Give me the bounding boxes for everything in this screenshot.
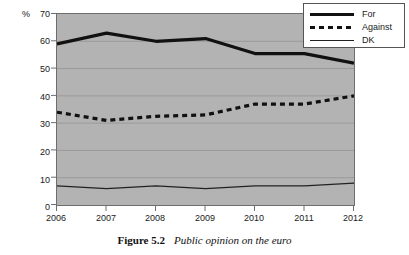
y-tick-label-70: 70 (30, 10, 50, 19)
x-tick-label-2008: 2008 (138, 214, 172, 223)
y-tick-label-30: 30 (30, 120, 50, 129)
y-tick-label-50: 50 (30, 65, 50, 74)
series-line-against (57, 96, 354, 121)
y-tick-label-40: 40 (30, 93, 50, 102)
x-tick-label-2007: 2007 (89, 214, 123, 223)
legend-swatch-dk-icon (310, 36, 354, 46)
legend-label-against: Against (362, 23, 392, 32)
y-tick-label-10: 10 (30, 176, 50, 185)
chart-legend: For Against DK (303, 3, 405, 48)
caption-figure-number: Figure 5.2 (118, 234, 165, 246)
series-line-dk (57, 183, 354, 188)
figure-container: % 70 60 50 40 30 20 10 0 (0, 0, 409, 255)
y-tick-label-60: 60 (30, 37, 50, 46)
legend-item-against: Against (304, 21, 404, 34)
legend-item-for: For (304, 8, 404, 21)
legend-swatch-against-icon (310, 23, 354, 33)
legend-swatch-for-icon (310, 10, 354, 20)
y-tick-label-0: 0 (30, 203, 50, 212)
gridlines (57, 41, 354, 177)
y-axis-unit-label: % (22, 10, 30, 19)
y-tick-label-20: 20 (30, 148, 50, 157)
x-tick-label-2012: 2012 (336, 214, 370, 223)
y-axis-ticks (50, 13, 57, 207)
x-axis-ticks (56, 206, 356, 212)
x-tick-label-2011: 2011 (287, 214, 321, 223)
legend-label-dk: DK (362, 36, 375, 45)
x-tick-label-2010: 2010 (237, 214, 271, 223)
caption-title-text: Public opinion on the euro (174, 234, 292, 246)
legend-label-for: For (362, 10, 376, 19)
x-tick-label-2009: 2009 (188, 214, 222, 223)
legend-item-dk: DK (304, 34, 404, 47)
figure-caption: Figure 5.2Public opinion on the euro (0, 234, 409, 246)
x-tick-label-2006: 2006 (39, 214, 73, 223)
